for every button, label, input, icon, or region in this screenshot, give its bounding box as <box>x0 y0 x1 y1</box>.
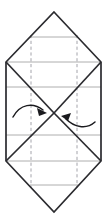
guide-line-group <box>6 37 101 185</box>
fold-diagram-canvas <box>0 0 108 223</box>
fold-arrow-left <box>13 105 47 117</box>
diagonal-fold-group <box>6 62 101 161</box>
fold-arrow-right-curve <box>66 119 95 127</box>
diagonal-top-right-to-center <box>54 62 101 113</box>
origami-diagram <box>0 0 108 223</box>
diagonal-center-to-bottom-left <box>6 113 54 161</box>
diagonal-center-to-bottom-right <box>54 113 101 161</box>
